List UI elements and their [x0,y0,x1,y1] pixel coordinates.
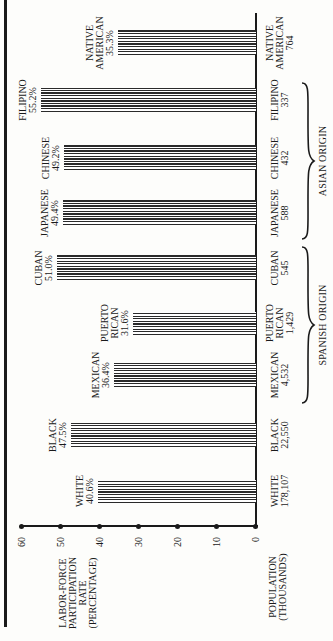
bar-black [71,423,256,447]
y-axis-title-line: (PERCENTAGE) [88,553,98,633]
tick-0 [253,524,258,529]
tick-label-0: 0 [250,537,261,561]
page-border-rule [4,0,7,627]
tick-40 [97,524,102,529]
y-axis-title: LABOR-FORCE PARTICIPATION RATE (PERCENTA… [58,553,98,633]
group-label-spanish-origin: SPANISH ORIGIN [317,265,328,385]
bar-mexican [114,363,256,387]
bar-cuban [57,255,256,280]
tick-label-30: 30 [133,537,144,561]
bar-label-black: BLACK 47.5% [48,400,68,470]
bar-japanese [63,200,256,225]
bar-label-white: WHITE 40.6% [75,456,95,526]
bar-filipino [41,88,256,112]
category-label-native-american: NATIVE AMERICAN 764 [265,8,295,78]
chart-frame: 0 10 20 30 40 50 60 LABOR-FORCE PARTICIP… [0,0,333,641]
bar-label-native-american: NATIVE AMERICAN 35.3% [85,8,115,78]
tick-20 [175,524,180,529]
tick-10 [214,524,219,529]
bar-white [98,480,256,503]
chart-viewport: 0 10 20 30 40 50 60 LABOR-FORCE PARTICIP… [0,0,333,641]
tick-50 [58,524,63,529]
bar-value: 31.6% [120,288,130,358]
tick-60 [19,524,24,529]
brace-asian-origin-icon [300,81,316,241]
bar-puerto-rican [133,312,256,335]
x-axis-title-line: (THOUSANDS) [278,547,288,627]
x-axis-title: POPULATION (THOUSANDS) [268,547,288,627]
tick-label-20: 20 [172,537,183,561]
population-value: 22,550 [280,400,290,470]
population-value: 764 [285,8,295,78]
category-label-black: BLACK 22,550 [270,400,290,470]
bar-value: 49.2% [51,123,61,193]
tick-label-60: 60 [16,537,27,561]
bar-value: 55.2% [28,65,38,135]
bar-value: 35.3% [105,8,115,78]
bar-label-filipino: FILIPINO 55.2% [18,65,38,135]
bar-chinese [64,145,256,170]
bar-native-american [118,30,256,55]
tick-label-10: 10 [211,537,222,561]
group-label-asian-origin: ASIAN ORIGIN [317,101,328,221]
bar-value: 40.6% [85,456,95,526]
bar-label-chinese: CHINESE 49.2% [41,123,61,193]
brace-spanish-origin-icon [300,245,316,405]
bar-value: 47.5% [58,400,68,470]
bar-label-puerto-rican: PUERTO RICAN 31.6% [100,288,130,358]
tick-30 [136,524,141,529]
